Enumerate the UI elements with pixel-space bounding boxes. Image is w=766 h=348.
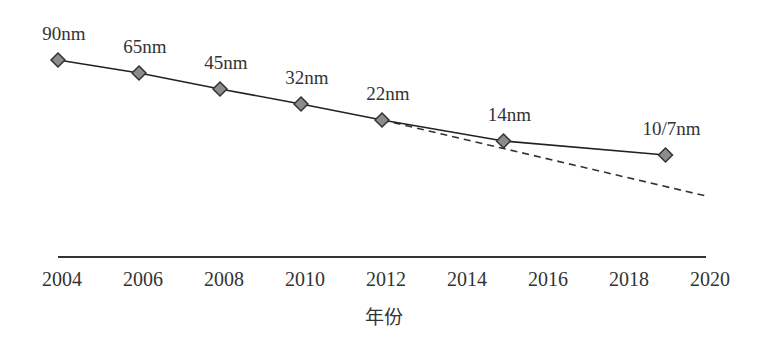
- x-tick-label: 2008: [204, 268, 244, 290]
- point-label: 65nm: [123, 36, 167, 57]
- diamond-marker: [132, 66, 146, 80]
- point-label: 10/7nm: [642, 118, 700, 139]
- diamond-marker: [659, 148, 673, 162]
- diamond-marker: [497, 134, 511, 148]
- x-tick-label: 2018: [609, 268, 649, 290]
- point-label: 22nm: [366, 83, 410, 104]
- x-tick-label: 2016: [528, 268, 568, 290]
- x-tick-label: 2010: [285, 268, 325, 290]
- x-tick-label: 2020: [690, 268, 730, 290]
- point-label: 45nm: [204, 52, 248, 73]
- x-tick-label: 2006: [123, 268, 163, 290]
- chart: 200420062008201020122014201620182020 年份 …: [0, 0, 766, 348]
- process-node-line: [58, 60, 666, 155]
- x-axis-title: 年份: [365, 306, 403, 328]
- diamond-marker: [213, 82, 227, 96]
- data-markers: [51, 53, 673, 162]
- diamond-marker: [375, 113, 389, 127]
- x-tick-label: 2014: [447, 268, 487, 290]
- data-point-labels: 90nm65nm45nm32nm22nm14nm10/7nm: [42, 23, 700, 139]
- point-label: 32nm: [285, 67, 329, 88]
- x-tick-label: 2004: [42, 268, 82, 290]
- point-label: 14nm: [488, 104, 532, 125]
- x-axis-tick-labels: 200420062008201020122014201620182020: [42, 268, 730, 290]
- diamond-marker: [294, 97, 308, 111]
- point-label: 90nm: [42, 23, 86, 44]
- diamond-marker: [51, 53, 65, 67]
- x-tick-label: 2012: [366, 268, 406, 290]
